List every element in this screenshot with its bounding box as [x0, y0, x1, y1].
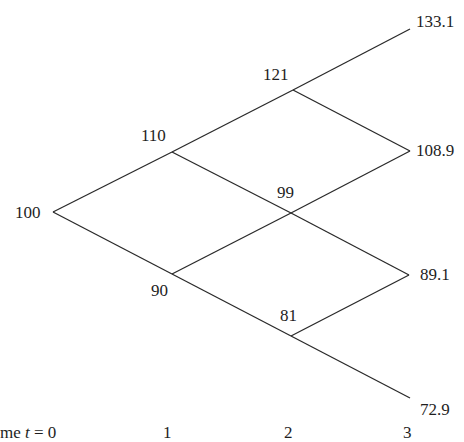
edge-121-133 — [293, 29, 410, 90]
node-label-t3-108-9: 108.9 — [416, 142, 454, 159]
time-axis-equals: = 0 — [30, 423, 57, 442]
edge-99-89 — [291, 213, 409, 275]
time-axis-tick-2: 2 — [284, 424, 293, 441]
node-label-t1-90: 90 — [151, 282, 168, 299]
edge-100-110 — [53, 152, 172, 212]
edge-90-99 — [172, 213, 291, 274]
tree-edges — [0, 0, 464, 442]
edge-90-81 — [172, 274, 291, 336]
time-axis-tick-3: 3 — [403, 424, 412, 441]
time-axis-prefix: me — [0, 423, 25, 442]
node-label-t3-89-1: 89.1 — [420, 266, 450, 283]
edge-110-99 — [172, 152, 291, 213]
edge-81-72 — [291, 336, 410, 398]
edge-81-89 — [291, 275, 409, 336]
edge-110-121 — [172, 90, 293, 152]
time-axis-label-t0: me t = 0 — [0, 424, 56, 441]
node-label-t2-81: 81 — [280, 307, 297, 324]
node-label-t3-133-1: 133.1 — [416, 13, 454, 30]
edge-100-90 — [53, 212, 172, 274]
edge-99-108 — [291, 151, 410, 213]
node-label-t3-72-9: 72.9 — [420, 401, 450, 418]
edge-121-108 — [293, 90, 410, 151]
node-label-t1-110: 110 — [141, 127, 166, 144]
node-label-t0-100: 100 — [15, 204, 41, 221]
node-label-t2-99: 99 — [277, 184, 294, 201]
time-axis-tick-1: 1 — [163, 424, 172, 441]
node-label-t2-121: 121 — [263, 66, 289, 83]
